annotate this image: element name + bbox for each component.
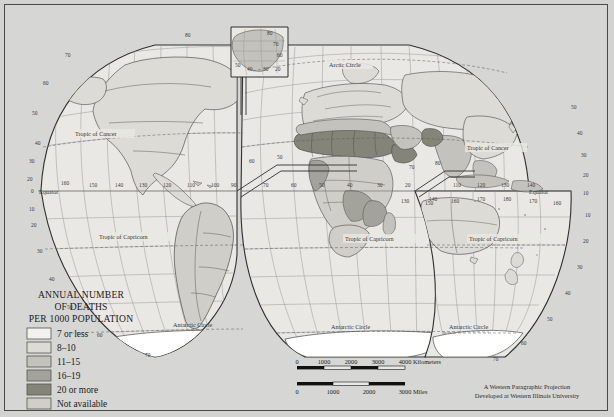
svg-text:60: 60	[291, 182, 297, 188]
svg-text:60: 60	[97, 332, 103, 338]
svg-text:40: 40	[247, 66, 253, 72]
svg-text:40: 40	[49, 276, 55, 282]
svg-text:100: 100	[211, 182, 219, 188]
map-frame: 80 70 60 50 40 30 20	[4, 4, 608, 411]
svg-text:3000: 3000	[372, 358, 385, 365]
label-antarctic-circle-right: Antarctic Circle	[449, 324, 488, 330]
svg-text:0: 0	[295, 358, 298, 365]
svg-text:70: 70	[409, 164, 415, 170]
svg-text:140: 140	[429, 196, 437, 202]
legend-item: 8–10	[27, 342, 76, 353]
svg-text:110: 110	[187, 182, 195, 188]
svg-text:50: 50	[277, 154, 283, 160]
svg-text:3000: 3000	[399, 388, 412, 395]
svg-text:50: 50	[571, 104, 577, 110]
legend-item: 16–19	[27, 370, 81, 381]
label-antarctic-circle-mid: Antarctic Circle	[331, 324, 370, 330]
legend-label: Not available	[57, 399, 107, 409]
svg-text:170: 170	[529, 198, 537, 204]
svg-text:80: 80	[185, 32, 191, 38]
svg-text:2000: 2000	[345, 358, 358, 365]
legend-item: Not available	[27, 398, 107, 409]
svg-text:10: 10	[583, 190, 589, 196]
svg-text:0: 0	[295, 388, 298, 395]
credit-line-1: A Western Paragraphic Projection	[484, 383, 571, 390]
legend-label: 7 or less	[57, 329, 89, 339]
svg-text:10: 10	[29, 206, 35, 212]
svg-text:70: 70	[493, 356, 499, 362]
svg-text:60: 60	[43, 80, 49, 86]
svg-text:180: 180	[503, 196, 511, 202]
svg-text:30: 30	[581, 152, 587, 158]
svg-text:20: 20	[27, 176, 33, 182]
label-tropic-capricorn-right: Tropic of Capricorn	[469, 236, 518, 242]
svg-text:90: 90	[231, 182, 237, 188]
scale-bar-kilometers: 0 1000 2000 3000 4000 Kilometers	[295, 358, 441, 369]
svg-text:120: 120	[477, 182, 485, 188]
svg-text:40: 40	[35, 140, 41, 146]
svg-text:170: 170	[477, 196, 485, 202]
svg-text:1000: 1000	[318, 358, 331, 365]
svg-text:160: 160	[61, 180, 69, 186]
legend-item: 11–15	[27, 356, 80, 367]
legend-label: 8–10	[57, 343, 76, 353]
svg-text:30: 30	[377, 182, 383, 188]
svg-text:60: 60	[521, 340, 527, 346]
label-arctic-circle: Arctic Circle	[329, 62, 361, 68]
svg-text:50: 50	[235, 62, 241, 68]
label-tropic-capricorn-left: Tropic of Capricorn	[99, 234, 148, 240]
svg-text:10: 10	[585, 212, 591, 218]
svg-text:140: 140	[527, 182, 535, 188]
label-tropic-cancer-left: Tropic of Cancer	[75, 131, 116, 137]
svg-text:1000: 1000	[327, 388, 340, 395]
region-madagascar	[383, 213, 396, 235]
legend-title-line-1: ANNUAL NUMBER	[38, 289, 125, 300]
svg-text:20: 20	[583, 172, 589, 178]
svg-text:40: 40	[577, 130, 583, 136]
svg-text:30: 30	[37, 248, 43, 254]
svg-text:30: 30	[29, 158, 35, 164]
svg-text:20: 20	[275, 66, 281, 72]
legend-label: 16–19	[57, 371, 81, 381]
svg-text:130: 130	[401, 198, 409, 204]
svg-text:110: 110	[453, 182, 461, 188]
svg-text:70: 70	[263, 182, 269, 188]
svg-text:50: 50	[32, 110, 38, 116]
label-antarctic-circle-left: Antarctic Circle	[173, 322, 212, 328]
scale-unit-kilometers: Kilometers	[413, 358, 442, 365]
legend-label: 11–15	[57, 357, 80, 367]
label-equator-left: Equator	[39, 189, 58, 195]
region-south-america	[174, 203, 233, 329]
svg-text:150: 150	[89, 182, 97, 188]
svg-text:50: 50	[319, 182, 325, 188]
svg-text:130: 130	[501, 182, 509, 188]
svg-text:160: 160	[553, 200, 561, 206]
svg-text:40: 40	[565, 290, 571, 296]
svg-text:2000: 2000	[363, 388, 376, 395]
legend-label: 20 or more	[57, 385, 98, 395]
label-tropic-cancer-right: Tropic of Cancer	[467, 145, 508, 151]
map-figure: 80 70 60 50 40 30 20	[0, 0, 614, 417]
svg-text:70: 70	[65, 52, 71, 58]
legend-title-line-3: PER 1000 POPULATION	[29, 313, 134, 324]
svg-text:80: 80	[267, 30, 273, 36]
svg-text:20: 20	[31, 222, 37, 228]
svg-text:20: 20	[405, 182, 411, 188]
projection-credit: A Western Paragraphic Projection Develop…	[475, 383, 580, 399]
credit-line-2: Developed at Western Illinois University	[475, 392, 580, 399]
svg-text:40: 40	[347, 182, 353, 188]
map-canvas: 80 70 60 50 40 30 20	[5, 5, 607, 410]
svg-text:20: 20	[583, 238, 589, 244]
svg-text:140: 140	[115, 182, 123, 188]
legend-item: 20 or more	[27, 384, 98, 395]
legend-item: 7 or less	[27, 328, 89, 339]
lobe-oceania	[415, 191, 571, 357]
svg-text:130: 130	[139, 182, 147, 188]
svg-text:0: 0	[31, 188, 34, 194]
scale-bar-miles: 0 1000 2000 3000 Miles	[295, 382, 427, 395]
svg-text:50: 50	[547, 316, 553, 322]
world-map-svg: 80 70 60 50 40 30 20	[5, 5, 607, 410]
svg-text:160: 160	[451, 198, 459, 204]
legend-title-line-2: OF DEATHS	[54, 301, 107, 312]
svg-text:70: 70	[273, 41, 279, 47]
